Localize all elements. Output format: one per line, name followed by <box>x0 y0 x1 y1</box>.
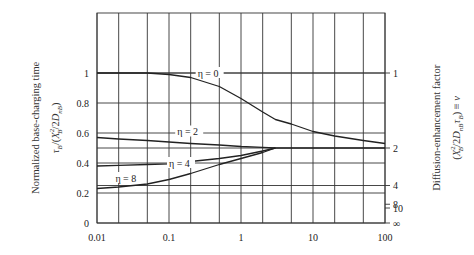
x-axis-ticks: 0.010.1110100 <box>88 232 392 243</box>
y2-tick-label: 10 <box>393 203 403 214</box>
y2-tick-label: 2 <box>393 143 398 154</box>
y2-axis-title: Diffusion-enhancement factor (X2B/2DnBτB… <box>429 23 469 233</box>
y2-axis-title-text: Diffusion-enhancement factor <box>429 23 445 233</box>
y-tick-label: 1 <box>84 68 89 79</box>
y2-tick-label: ∞ <box>393 218 400 229</box>
y-axis-ticks: 00.20.40.60.81 <box>77 68 90 229</box>
curve-labels: η = 0η = 2η = 4η = 8 <box>113 67 223 184</box>
curve-label: η = 0 <box>196 67 224 79</box>
y-axis-title-text: Normalized base-charging time <box>28 33 44 223</box>
y-tick-label: 0 <box>84 218 89 229</box>
svg-text:η = 0: η = 0 <box>198 68 219 79</box>
y-axis-formula: τB/(X2B/2DnB) <box>44 33 68 223</box>
svg-text:η = 2: η = 2 <box>177 126 198 137</box>
svg-text:η = 8: η = 8 <box>115 173 136 184</box>
y2-axis-formula: (X2B/2DnBτB) ≡ ν <box>445 23 469 233</box>
grid <box>97 13 390 223</box>
y2-tick-label: 1 <box>393 68 398 79</box>
y-tick-label: 0.6 <box>77 128 90 139</box>
y2-tick-label: 4 <box>393 180 398 191</box>
y-axis-title: Normalized base-charging time τB/(X2B/2D… <box>28 33 68 223</box>
x-tick-label: 1 <box>239 232 244 243</box>
x-tick-label: 0.01 <box>88 232 106 243</box>
y-tick-label: 0.4 <box>77 158 90 169</box>
x-tick-label: 10 <box>308 232 318 243</box>
curve-label: η = 4 <box>167 157 195 169</box>
x-tick-label: 0.1 <box>163 232 176 243</box>
y2-axis-ticks: 124810∞ <box>393 68 403 229</box>
curve-label: η = 8 <box>113 172 141 184</box>
curve-label: η = 2 <box>175 126 203 138</box>
y-tick-label: 0.2 <box>77 188 90 199</box>
chart-canvas: 0.010.1110100 00.20.40.60.81 124810∞ η =… <box>0 0 474 255</box>
y-tick-label: 0.8 <box>77 98 90 109</box>
x-tick-label: 100 <box>378 232 393 243</box>
svg-text:η = 4: η = 4 <box>169 158 190 169</box>
